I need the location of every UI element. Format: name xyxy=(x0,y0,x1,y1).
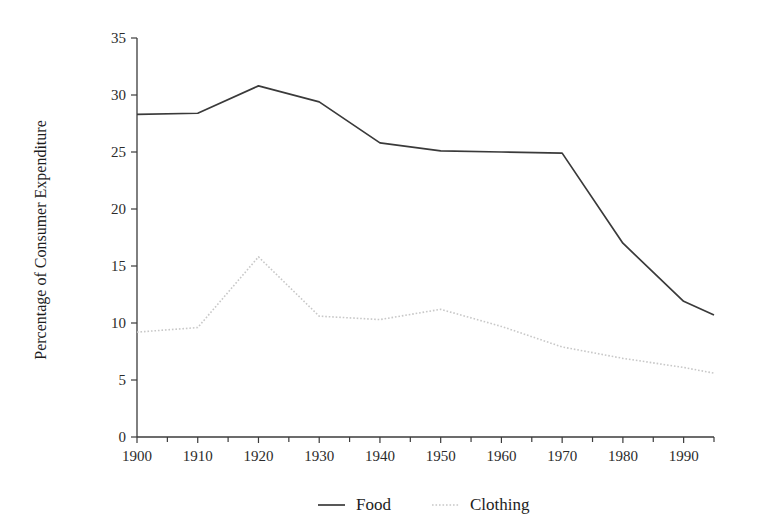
y-tick-label: 0 xyxy=(119,429,127,445)
axes xyxy=(137,38,714,437)
y-axis-title: Percentage of Consumer Expenditure xyxy=(32,120,50,359)
y-tick-label: 35 xyxy=(111,30,126,46)
x-tick-label: 1910 xyxy=(183,448,213,464)
y-axis-ticks: 05101520253035 xyxy=(111,30,137,445)
y-tick-label: 15 xyxy=(111,258,126,274)
y-tick-label: 10 xyxy=(111,315,126,331)
x-tick-label: 1950 xyxy=(426,448,456,464)
y-tick-label: 25 xyxy=(111,144,126,160)
series-line-clothing xyxy=(137,257,714,373)
chart-legend: FoodClothing xyxy=(318,495,530,514)
y-tick-label: 5 xyxy=(119,372,127,388)
x-tick-label: 1990 xyxy=(669,448,699,464)
x-tick-label: 1920 xyxy=(243,448,273,464)
chart-page: Percentage of Consumer Expenditure 05101… xyxy=(0,0,757,526)
y-tick-label: 20 xyxy=(111,201,126,217)
x-tick-label: 1970 xyxy=(547,448,577,464)
x-tick-label: 1900 xyxy=(122,448,152,464)
x-tick-label: 1980 xyxy=(608,448,638,464)
x-tick-label: 1940 xyxy=(365,448,395,464)
y-tick-label: 30 xyxy=(111,87,126,103)
legend-label-clothing: Clothing xyxy=(470,495,530,514)
legend-label-food: Food xyxy=(356,495,391,514)
series-line-food xyxy=(137,86,714,315)
line-chart: Percentage of Consumer Expenditure 05101… xyxy=(0,0,757,526)
x-tick-label: 1960 xyxy=(486,448,516,464)
x-tick-label: 1930 xyxy=(304,448,334,464)
series-group xyxy=(137,86,714,373)
